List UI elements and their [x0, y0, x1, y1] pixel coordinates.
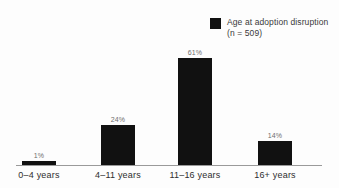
legend-text: Age at adoption disruption (n = 509): [227, 17, 328, 40]
bar-group: 24%: [101, 116, 135, 165]
x-axis-line: [16, 165, 322, 166]
bar-value-label: 1%: [34, 152, 45, 159]
legend-sublabel: (n = 509): [227, 28, 328, 39]
bar-value-label: 61%: [188, 49, 203, 56]
bar-group: 1%: [22, 152, 56, 165]
bar-value-label: 14%: [268, 132, 283, 139]
category-label: 4–11 years: [85, 170, 151, 180]
legend-swatch-icon: [210, 18, 221, 29]
bar-group: 14%: [258, 132, 292, 165]
bar-rect: [178, 58, 212, 165]
bar-rect: [258, 141, 292, 165]
category-label: 0–4 years: [9, 170, 69, 180]
bar-value-label: 24%: [111, 116, 126, 123]
bar-group: 61%: [178, 49, 212, 165]
chart-legend: Age at adoption disruption (n = 509): [210, 17, 328, 40]
legend-label: Age at adoption disruption: [227, 17, 328, 28]
bar-rect: [101, 125, 135, 165]
bar-chart: 1% 24% 61% 14% 0–4 years 4–11 years 11–1…: [0, 0, 339, 188]
bar-rect: [22, 161, 56, 165]
category-label: 11–16 years: [161, 170, 229, 180]
category-label: 16+ years: [243, 170, 307, 180]
